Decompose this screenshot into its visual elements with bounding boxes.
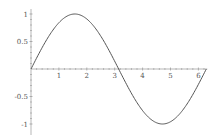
x-tick-label: 6 [196, 72, 201, 80]
x-tick-label: 2 [85, 72, 89, 80]
tick-labels: 12345610.5-0.5-1 [15, 11, 202, 129]
y-tick-label: -1 [21, 121, 28, 129]
x-tick-label: 1 [57, 72, 61, 80]
y-tick-label: 1 [24, 11, 28, 19]
sine-plot: 12345610.5-0.5-1 [0, 0, 218, 138]
x-tick-label: 4 [140, 72, 145, 80]
y-tick-label: -0.5 [15, 93, 29, 101]
y-tick-label: 0.5 [17, 38, 28, 46]
x-tick-label: 5 [168, 72, 172, 80]
x-tick-label: 3 [112, 72, 116, 80]
